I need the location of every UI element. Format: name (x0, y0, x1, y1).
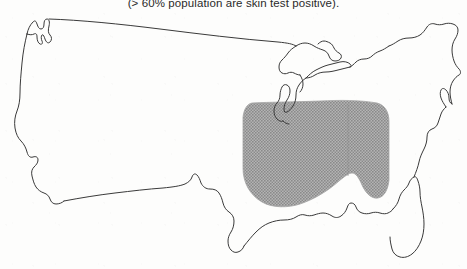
shaded-endemic-region (240, 98, 395, 213)
figure-root: (> 60% population are skin test positive… (0, 0, 467, 269)
us-national-outline (15, 19, 461, 257)
us-map-figure (0, 0, 467, 269)
